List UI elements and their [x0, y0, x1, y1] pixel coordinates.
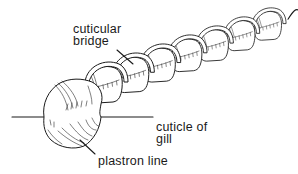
gill-diagram — [0, 0, 298, 174]
gill-tail — [288, 10, 298, 20]
label-cuticle-of-gill: cuticle of gill — [156, 121, 207, 145]
label-cuticular-bridge: cuticular bridge — [73, 23, 121, 47]
gill-bulb — [44, 79, 102, 148]
label-plastron-line: plastron line — [98, 155, 168, 167]
